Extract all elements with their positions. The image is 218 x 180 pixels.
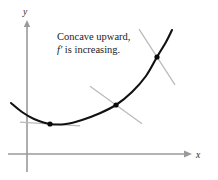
annotation-line-2-rest: is increasing.	[62, 44, 120, 55]
tangent-point-3	[154, 54, 159, 59]
concave-upward-figure: x y Concave upward, f′ is increasing.	[0, 0, 218, 180]
y-axis-label: y	[22, 7, 28, 17]
tangent-point-1	[47, 121, 52, 126]
figure-container: x y Concave upward, f′ is increasing.	[0, 0, 218, 180]
annotation-line-2: f′ is increasing.	[57, 44, 120, 55]
tangent-point-2	[113, 102, 118, 107]
x-axis-label: x	[195, 150, 201, 160]
annotation-line-1: Concave upward,	[57, 31, 130, 42]
